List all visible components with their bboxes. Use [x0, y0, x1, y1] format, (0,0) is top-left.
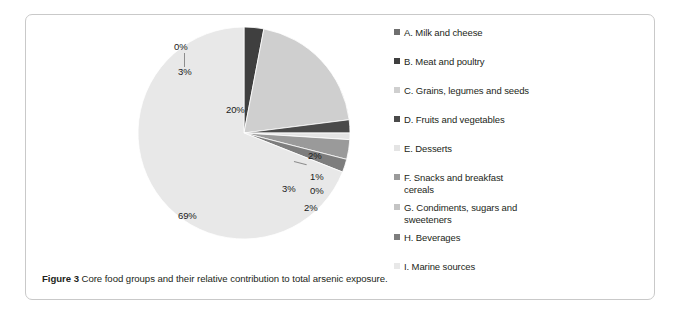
- pie-label-i: 69%: [178, 211, 197, 221]
- pie-label-h: 2%: [304, 203, 318, 213]
- legend-swatch-h-icon: [394, 234, 400, 240]
- legend-item-g[interactable]: G. Condiments, sugars and sweeteners: [394, 202, 529, 225]
- legend-item-a[interactable]: A. Milk and cheese: [394, 27, 482, 39]
- legend-label-c: C. Grains, legumes and seeds: [404, 85, 529, 97]
- pie-label-b: 3%: [178, 67, 192, 77]
- legend-label-h: H. Beverages: [404, 232, 460, 244]
- figure-caption-text: Core food groups and their relative cont…: [82, 273, 388, 284]
- legend-label-d: D. Fruits and vegetables: [404, 114, 505, 126]
- legend-swatch-i-icon: [394, 263, 400, 269]
- figure-caption-number: Figure 3: [42, 273, 79, 284]
- legend-label-f: F. Snacks and breakfast cereals: [404, 172, 529, 195]
- legend-swatch-f-icon: [394, 174, 400, 180]
- pie-label-e: 1%: [310, 172, 324, 182]
- pie-label-d: 2%: [308, 151, 322, 161]
- legend-label-e: E. Desserts: [404, 143, 452, 155]
- pie-label-a: 0%: [174, 42, 188, 52]
- legend-label-a: A. Milk and cheese: [404, 27, 482, 39]
- legend-swatch-g-icon: [394, 204, 400, 210]
- legend-item-f[interactable]: F. Snacks and breakfast cereals: [394, 172, 529, 195]
- pie-label-g: 0%: [310, 186, 324, 196]
- legend-item-c[interactable]: C. Grains, legumes and seeds: [394, 85, 529, 97]
- legend-label-b: B. Meat and poultry: [404, 56, 484, 68]
- legend-swatch-b-icon: [394, 58, 400, 64]
- figure-caption: Figure 3 Core food groups and their rela…: [42, 273, 642, 285]
- figure-panel: 0% 3% 20% 2% 1% 3% 0% 2% 69% A. Milk and…: [25, 14, 655, 300]
- legend-swatch-e-icon: [394, 145, 400, 151]
- legend-swatch-c-icon: [394, 87, 400, 93]
- pie-label-c: 20%: [226, 105, 245, 115]
- legend-item-d[interactable]: D. Fruits and vegetables: [394, 114, 505, 126]
- pie-svg: [136, 25, 352, 241]
- legend-swatch-a-icon: [394, 29, 400, 35]
- legend-label-i: I. Marine sources: [404, 261, 475, 273]
- legend-swatch-d-icon: [394, 116, 400, 122]
- pie-slices: [138, 27, 350, 239]
- legend-item-i[interactable]: I. Marine sources: [394, 261, 475, 273]
- pie-chart: 0% 3% 20% 2% 1% 3% 0% 2% 69% A. Milk and…: [26, 15, 656, 267]
- pie-label-f: 3%: [282, 184, 296, 194]
- legend-label-g: G. Condiments, sugars and sweeteners: [404, 202, 529, 225]
- legend-item-b[interactable]: B. Meat and poultry: [394, 56, 484, 68]
- legend-item-h[interactable]: H. Beverages: [394, 232, 460, 244]
- leader-line-a: [184, 53, 185, 67]
- chart-legend: A. Milk and cheese B. Meat and poultry C…: [394, 23, 594, 267]
- legend-item-e[interactable]: E. Desserts: [394, 143, 452, 155]
